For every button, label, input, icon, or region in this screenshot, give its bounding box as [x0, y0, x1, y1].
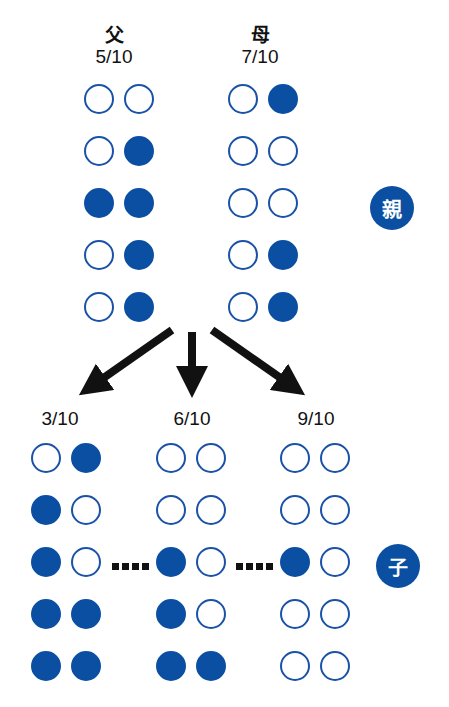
filled-allele-dot — [71, 599, 101, 629]
empty-allele-dot — [280, 651, 310, 681]
arrow-left-icon — [92, 330, 172, 386]
empty-allele-dot — [196, 443, 226, 473]
empty-allele-dot — [320, 495, 350, 525]
filled-allele-dot — [280, 547, 310, 577]
empty-allele-dot — [280, 495, 310, 525]
child-3-score: 9/10 — [276, 408, 356, 430]
empty-allele-dot — [320, 443, 350, 473]
dotted-connector-2 — [236, 563, 273, 570]
empty-allele-dot — [31, 443, 61, 473]
arrow-right-icon — [212, 330, 292, 386]
filled-allele-dot — [71, 443, 101, 473]
empty-allele-dot — [71, 495, 101, 525]
empty-allele-dot — [320, 651, 350, 681]
child-2-score: 6/10 — [152, 408, 232, 430]
empty-allele-dot — [71, 547, 101, 577]
filled-allele-dot — [31, 547, 61, 577]
filled-allele-dot — [31, 651, 61, 681]
empty-allele-dot — [320, 547, 350, 577]
empty-allele-dot — [196, 495, 226, 525]
empty-allele-dot — [156, 495, 186, 525]
filled-allele-dot — [156, 651, 186, 681]
child-1-score: 3/10 — [20, 408, 100, 430]
empty-allele-dot — [196, 599, 226, 629]
empty-allele-dot — [280, 599, 310, 629]
dotted-connector-1 — [112, 563, 149, 570]
filled-allele-dot — [156, 547, 186, 577]
empty-allele-dot — [156, 443, 186, 473]
empty-allele-dot — [280, 443, 310, 473]
empty-allele-dot — [196, 547, 226, 577]
child-badge: 子 — [376, 544, 420, 588]
filled-allele-dot — [31, 495, 61, 525]
filled-allele-dot — [196, 651, 226, 681]
filled-allele-dot — [156, 599, 186, 629]
filled-allele-dot — [71, 651, 101, 681]
filled-allele-dot — [31, 599, 61, 629]
empty-allele-dot — [320, 599, 350, 629]
inheritance-arrows — [0, 0, 449, 707]
